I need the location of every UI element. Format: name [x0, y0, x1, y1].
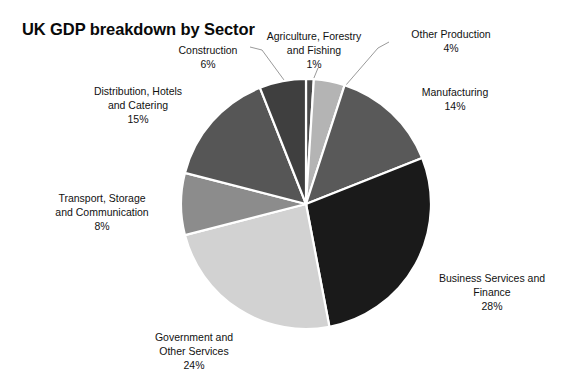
chart-canvas: UK GDP breakdown by Sector Agriculture, …: [0, 0, 569, 392]
slice-label-agriculture-forestry-and-fishing: Agriculture, Forestry and Fishing 1%: [258, 30, 370, 72]
slice-label-transport-storage-and-communication: Transport, Storage and Communication 8%: [32, 192, 172, 234]
slice-label-business-services-and-finance: Business Services and Finance 28%: [428, 272, 556, 314]
pie-chart: [180, 78, 432, 330]
slice-label-other-production: Other Production 4%: [388, 28, 514, 56]
chart-title: UK GDP breakdown by Sector: [22, 20, 255, 39]
slice-label-government-and-other-services: Government and Other Services 24%: [126, 331, 262, 373]
slice-label-distribution-hotels-and-catering: Distribution, Hotels and Catering 15%: [74, 85, 202, 127]
slice-label-construction: Construction 6%: [160, 44, 256, 72]
pie-svg: [180, 78, 432, 330]
slice-label-manufacturing: Manufacturing 14%: [396, 86, 514, 114]
